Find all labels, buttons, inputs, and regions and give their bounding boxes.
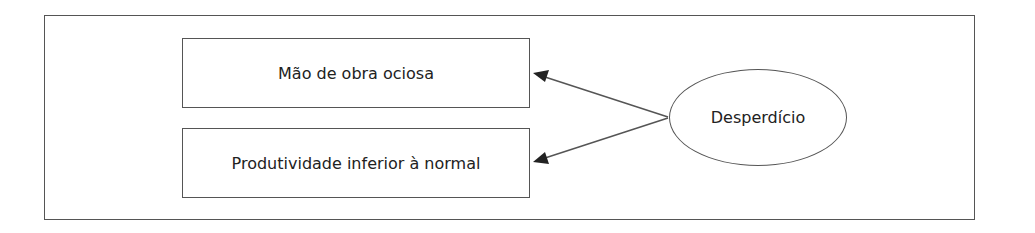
arrows-layer xyxy=(0,0,1035,233)
arrow-to-mao-de-obra xyxy=(533,70,668,117)
arrow-to-produtividade xyxy=(533,118,668,164)
